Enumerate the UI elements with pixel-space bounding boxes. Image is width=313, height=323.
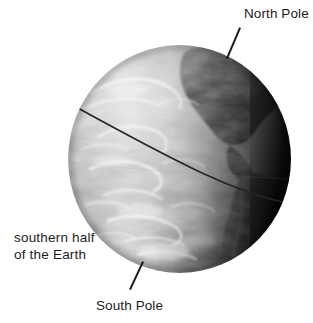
figure-canvas: North Pole South Pole southern half of t… xyxy=(0,0,313,323)
earth-globe xyxy=(68,45,291,273)
south-pole-label: South Pole xyxy=(96,298,163,313)
southern-half-line-2: of the Earth xyxy=(14,246,95,263)
southern-half-label: southern half of the Earth xyxy=(14,229,95,263)
north-pole-label: North Pole xyxy=(244,6,309,21)
globe-surface xyxy=(68,45,291,273)
southern-half-line-1: southern half xyxy=(14,229,95,246)
earth-globe-graphic xyxy=(68,45,291,273)
